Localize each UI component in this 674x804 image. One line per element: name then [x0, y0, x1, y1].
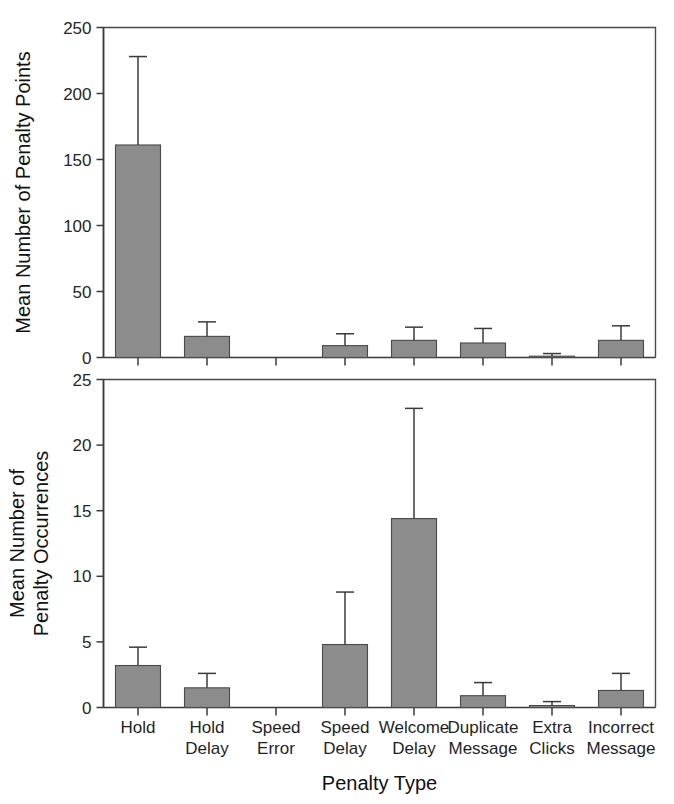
chart-canvas: 0501001502002500510152025HoldHoldDelaySp…: [0, 0, 674, 804]
y-axis-title-bottom-line-2: Penalty Occurrences: [30, 451, 52, 637]
x-category-label-2: Speed: [251, 718, 300, 737]
bar-top-5: [461, 343, 506, 358]
x-category-label-0: Hold: [121, 718, 156, 737]
y-tick-label-bottom-3: 15: [73, 502, 92, 521]
y-tick-label-bottom-0: 0: [82, 699, 91, 718]
bar-bottom-1: [185, 688, 230, 708]
x-category-label-3: Delay: [323, 739, 367, 758]
bar-top-1: [185, 336, 230, 357]
plot-frame-top: [104, 28, 656, 358]
y-tick-label-bottom-1: 5: [82, 633, 91, 652]
x-category-label-7: Incorrect: [588, 718, 654, 737]
y-tick-label-bottom-2: 10: [73, 567, 92, 586]
bar-top-6: [530, 356, 575, 357]
bar-bottom-5: [461, 696, 506, 708]
plot-frame-bottom: [104, 380, 656, 708]
bar-top-0: [116, 145, 161, 358]
y-tick-label-top-2: 100: [63, 217, 91, 236]
y-tick-label-top-0: 0: [82, 349, 91, 368]
bar-bottom-6: [530, 706, 575, 708]
y-axis-title-bottom-line-1: Mean Number of: [6, 469, 28, 618]
bar-top-7: [599, 340, 644, 357]
bar-top-3: [323, 346, 368, 358]
bar-bottom-0: [116, 666, 161, 708]
y-tick-label-top-5: 250: [63, 19, 91, 38]
panel-top: 050100150200250: [63, 19, 655, 368]
y-tick-label-top-1: 50: [73, 283, 92, 302]
x-category-label-4: Welcome: [379, 718, 450, 737]
bar-bottom-7: [599, 690, 644, 707]
x-axis-title: Penalty Type: [322, 772, 437, 794]
x-category-label-1: Delay: [185, 739, 229, 758]
penalty-figure: 0501001502002500510152025HoldHoldDelaySp…: [0, 0, 674, 804]
y-tick-label-bottom-4: 20: [73, 436, 92, 455]
bar-bottom-3: [323, 645, 368, 708]
x-category-label-3: Speed: [320, 718, 369, 737]
x-category-label-6: Clicks: [529, 739, 574, 758]
x-category-label-5: Duplicate: [448, 718, 519, 737]
x-category-label-1: Hold: [190, 718, 225, 737]
bar-bottom-4: [392, 519, 437, 708]
x-category-label-5: Message: [449, 739, 518, 758]
bar-top-4: [392, 340, 437, 357]
x-category-labels: HoldHoldDelaySpeedErrorSpeedDelayWelcome…: [121, 718, 656, 758]
x-category-label-4: Delay: [392, 739, 436, 758]
panel-bottom: 0510152025: [73, 371, 656, 718]
y-tick-label-top-4: 200: [63, 85, 91, 104]
x-category-label-7: Message: [587, 739, 656, 758]
x-category-label-6: Extra: [532, 718, 572, 737]
y-tick-label-bottom-5: 25: [73, 371, 92, 390]
x-category-label-2: Error: [257, 739, 295, 758]
y-tick-label-top-3: 150: [63, 151, 91, 170]
y-axis-title-top: Mean Number of Penalty Points: [12, 51, 34, 333]
